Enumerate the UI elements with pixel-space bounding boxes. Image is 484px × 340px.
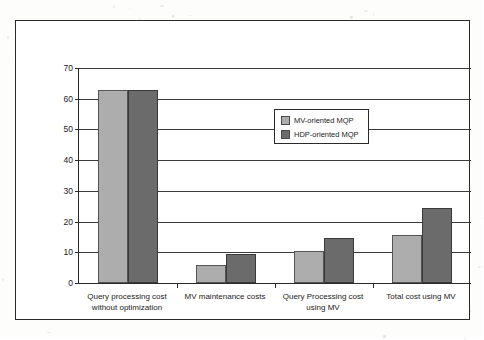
- scan-speck: [2, 278, 4, 280]
- y-tick-label-0: 0: [68, 278, 73, 288]
- y-tick-label-20: 20: [64, 217, 73, 227]
- scan-speck: [383, 335, 385, 338]
- bar-group-0-series-1: [128, 90, 158, 284]
- bar-group-2: [275, 68, 373, 283]
- legend-label-series-0: MV-oriented MQP: [294, 116, 354, 125]
- legend-swatch-icon-series-1: [281, 130, 290, 139]
- chart-frame: Execution time (millions of Milliseconds…: [15, 20, 470, 320]
- x-axis-category-labels: Query processing cost without optimizati…: [78, 291, 470, 331]
- scan-speck: [7, 61, 9, 62]
- y-tick-label-10: 10: [64, 247, 73, 257]
- category-label-3: Total cost using MV: [372, 291, 470, 302]
- category-label-2: Query Processing cost using MV: [274, 291, 372, 313]
- y-tick-label-30: 30: [64, 186, 73, 196]
- legend-swatch-icon-series-0: [281, 116, 290, 125]
- category-label-1: MV maintenance costs: [176, 291, 274, 302]
- bar-group-3-series-1: [422, 208, 452, 283]
- scan-speck: [129, 7, 131, 9]
- bar-group-2-series-1: [324, 238, 354, 283]
- scan-speck: [478, 266, 481, 268]
- scan-speck: [113, 5, 116, 8]
- legend-item-1: HDP-oriented MQP: [281, 127, 368, 141]
- y-tick-label-40: 40: [64, 155, 73, 165]
- x-tick-3: [373, 283, 374, 288]
- y-axis-title: Execution time (millions of Milliseconds…: [34, 0, 48, 63]
- scan-speck: [160, 5, 164, 7]
- scan-speck: [172, 15, 174, 18]
- chart-legend: MV-oriented MQP HDP-oriented MQP: [274, 109, 369, 144]
- scan-speck: [364, 10, 368, 11]
- scan-speck: [373, 13, 374, 16]
- scan-speck: [350, 16, 353, 19]
- bar-group-1-series-1: [226, 254, 256, 283]
- bar-group-3: [373, 68, 471, 283]
- scan-speck: [482, 218, 484, 219]
- bar-group-1-series-0: [196, 265, 226, 283]
- bar-group-2-series-0: [294, 251, 324, 283]
- bar-group-0-series-0: [98, 90, 128, 284]
- x-tick-1: [177, 283, 178, 288]
- scan-speck: [189, 15, 193, 16]
- plot-area: 010203040506070: [78, 68, 471, 284]
- bar-group-0: [79, 68, 177, 283]
- y-tick-label-70: 70: [64, 63, 73, 73]
- bar-group-3-series-0: [392, 235, 422, 283]
- bar-group-1: [177, 68, 275, 283]
- scan-speck: [7, 36, 8, 39]
- y-tick-label-60: 60: [64, 94, 73, 104]
- legend-label-series-1: HDP-oriented MQP: [294, 130, 359, 139]
- y-tick-label-50: 50: [64, 124, 73, 134]
- legend-item-0: MV-oriented MQP: [281, 113, 368, 127]
- category-label-0: Query processing cost without optimizati…: [78, 291, 176, 313]
- x-tick-2: [275, 283, 276, 288]
- scan-speck: [47, 332, 49, 333]
- y-tick-mark-0: [75, 283, 79, 284]
- scan-speck: [6, 277, 7, 278]
